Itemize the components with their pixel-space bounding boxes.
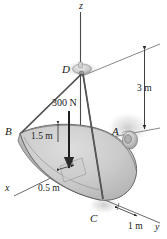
x-axis-label: x — [5, 183, 9, 193]
width-dimension-label: 1 m — [128, 222, 143, 232]
point-c-label: C — [90, 213, 97, 224]
radius-dimension-label: 1.5 m — [31, 132, 53, 142]
y-axis-label: y — [155, 222, 159, 232]
upper-reference-line — [82, 44, 160, 76]
height-dimension-label: 3 m — [137, 84, 152, 94]
bearing-support — [122, 131, 138, 149]
figure-drawing — [0, 0, 167, 239]
applied-load-label: 300 N — [52, 98, 77, 108]
point-a-label: A — [112, 126, 119, 137]
figure-container: z x y A B C D 3 m 1.5 m 0.5 m 1 m 300 N — [0, 0, 167, 239]
offset-dimension-label: 0.5 m — [38, 184, 60, 194]
point-b-label: B — [5, 126, 12, 137]
point-d-label: D — [62, 64, 70, 75]
z-axis-label: z — [79, 1, 83, 11]
